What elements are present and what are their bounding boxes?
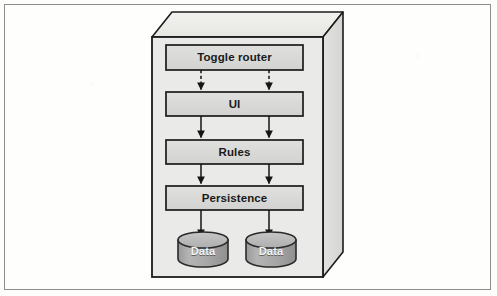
architecture-diagram — [0, 0, 497, 296]
layer-box-toggle-router[interactable] — [166, 45, 303, 70]
datastore-cylinder-right[interactable] — [246, 232, 296, 267]
layer-box-rules[interactable] — [166, 140, 303, 164]
datastore-cylinder-left[interactable] — [178, 232, 228, 267]
box-top-face — [152, 12, 343, 37]
layer-box-ui[interactable] — [166, 92, 303, 116]
layer-box-persistence[interactable] — [166, 186, 303, 210]
box-side-face — [323, 12, 343, 277]
figure-canvas: Toggle router UI Rules Persistence Data … — [0, 0, 497, 296]
